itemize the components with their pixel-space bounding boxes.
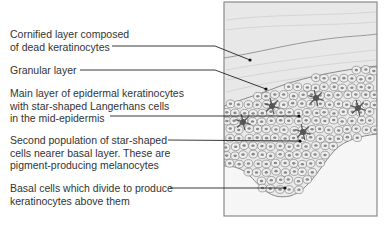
cell-nucleus: [360, 119, 363, 122]
cell-nucleus: [282, 128, 285, 131]
cell-nucleus: [345, 128, 348, 131]
cell-nucleus: [305, 153, 308, 156]
cell-nucleus: [342, 77, 345, 80]
cell-nucleus: [234, 145, 237, 148]
cell-nucleus: [274, 162, 277, 165]
cell-nucleus: [247, 162, 250, 165]
cell-nucleus: [269, 119, 272, 122]
cell-nucleus: [297, 120, 300, 123]
cell-nucleus: [368, 77, 371, 80]
cell-nucleus: [327, 129, 330, 132]
cell-nucleus: [297, 112, 300, 115]
dot-melanocytes: [298, 139, 301, 142]
cell-nucleus: [300, 170, 303, 173]
cell-nucleus: [306, 178, 309, 181]
cell-nucleus: [373, 129, 376, 132]
cell-nucleus: [292, 162, 295, 165]
cell-nucleus: [260, 121, 263, 124]
cell-nucleus: [372, 70, 375, 73]
cell-nucleus: [309, 162, 312, 165]
cell-nucleus: [287, 85, 290, 88]
cell-nucleus: [323, 154, 326, 157]
cell-nucleus: [232, 119, 235, 122]
cell-nucleus: [314, 87, 317, 90]
cell-nucleus: [300, 102, 303, 105]
cell-nucleus: [306, 86, 309, 89]
cell-nucleus: [304, 119, 307, 122]
cell-nucleus: [301, 163, 304, 166]
cell-nucleus: [342, 111, 345, 114]
cell-nucleus: [340, 87, 343, 90]
cell-nucleus: [356, 136, 359, 139]
cell-nucleus: [304, 145, 307, 148]
cell-nucleus: [368, 119, 371, 122]
cell-nucleus: [273, 136, 276, 139]
cell-nucleus: [346, 93, 349, 96]
cell-nucleus: [288, 154, 291, 157]
cell-nucleus: [314, 119, 317, 122]
cell-nucleus: [373, 104, 376, 107]
cell-nucleus: [256, 95, 259, 98]
cell-nucleus: [297, 188, 300, 191]
cell-nucleus: [297, 180, 300, 183]
cell-nucleus: [350, 86, 353, 89]
cell-nucleus: [368, 110, 371, 113]
cell-nucleus: [255, 104, 258, 107]
cell-nucleus: [293, 170, 296, 173]
cell-nucleus: [345, 103, 348, 106]
cell-nucleus: [279, 119, 282, 122]
cell-nucleus: [287, 146, 290, 149]
cell-nucleus: [337, 137, 340, 140]
cell-nucleus: [251, 112, 254, 115]
cell-nucleus: [237, 137, 240, 140]
cell-nucleus: [265, 163, 268, 166]
cell-nucleus: [346, 136, 349, 139]
cell-nucleus: [261, 153, 264, 156]
cell-nucleus: [305, 111, 308, 114]
cell-nucleus: [282, 103, 285, 106]
cell-nucleus: [355, 69, 358, 72]
cell-nucleus: [322, 85, 325, 88]
cell-nucleus: [256, 128, 259, 131]
cell-nucleus: [287, 120, 290, 123]
cell-nucleus: [247, 103, 250, 106]
cell-nucleus: [296, 85, 299, 88]
cell-nucleus: [328, 104, 331, 107]
cell-nucleus: [322, 111, 325, 114]
cell-nucleus: [314, 76, 317, 79]
cell-nucleus: [292, 137, 295, 140]
cell-nucleus: [278, 145, 281, 148]
cell-nucleus: [292, 95, 295, 98]
cell-nucleus: [319, 102, 322, 105]
cell-nucleus: [364, 68, 367, 71]
dot-cornified: [248, 58, 251, 61]
cell-nucleus: [260, 145, 263, 148]
cell-nucleus: [269, 145, 272, 148]
cell-nucleus: [368, 86, 371, 89]
cell-nucleus: [313, 153, 316, 156]
cell-nucleus: [331, 145, 334, 148]
cell-nucleus: [332, 112, 335, 115]
cell-nucleus: [359, 78, 362, 81]
illustration: [221, 2, 379, 216]
cell-nucleus: [284, 171, 287, 174]
cell-nucleus: [264, 128, 267, 131]
cell-nucleus: [279, 178, 282, 181]
cell-nucleus: [273, 93, 276, 96]
cell-nucleus: [336, 94, 339, 97]
cell-nucleus: [242, 144, 245, 147]
cell-nucleus: [310, 93, 313, 96]
cell-nucleus: [322, 77, 325, 80]
cell-nucleus: [373, 93, 376, 96]
cell-nucleus: [301, 93, 304, 96]
dot-basal: [283, 186, 286, 189]
cell-nucleus: [315, 112, 318, 115]
cell-nucleus: [311, 171, 314, 174]
cell-nucleus: [225, 111, 228, 114]
cell-nucleus: [252, 153, 255, 156]
cell-nucleus: [261, 112, 264, 115]
cell-nucleus: [228, 137, 231, 140]
cell-nucleus: [319, 138, 322, 141]
cell-nucleus: [243, 112, 246, 115]
cell-nucleus: [241, 153, 244, 156]
